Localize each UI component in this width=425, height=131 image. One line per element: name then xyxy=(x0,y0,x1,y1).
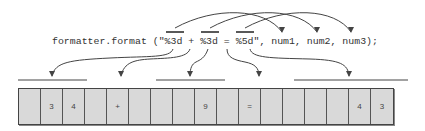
output-cell xyxy=(19,89,41,124)
output-cell xyxy=(261,89,283,124)
output-cell xyxy=(327,89,349,124)
output-cell xyxy=(283,89,305,124)
output-cell: 3 xyxy=(41,89,63,124)
output-cell: 3 xyxy=(371,89,393,124)
output-cell: 4 xyxy=(349,89,371,124)
literal-arrow-equals xyxy=(227,49,259,76)
field-arrow-3 xyxy=(250,49,349,76)
output-cell xyxy=(129,89,151,124)
output-cell xyxy=(151,89,173,124)
field-arrow-1 xyxy=(52,49,173,76)
format-specifier-diagram: formatter.format ("%3d + %3d = %5d", num… xyxy=(0,0,425,131)
arg-arrow-num1 xyxy=(175,13,282,32)
output-cell: = xyxy=(239,89,261,124)
output-cell xyxy=(217,89,239,124)
output-character-strip: 3 4 + 9 = 4 3 xyxy=(18,88,394,125)
literal-arrow-plus xyxy=(121,49,190,76)
field-arrow-2 xyxy=(190,49,208,76)
output-cell xyxy=(85,89,107,124)
output-cell: 9 xyxy=(195,89,217,124)
output-cell: + xyxy=(107,89,129,124)
output-cell xyxy=(305,89,327,124)
format-call-code: formatter.format ("%3d + %3d = %5d", num… xyxy=(52,36,378,47)
arg-arrow-num3 xyxy=(245,13,351,32)
output-cell xyxy=(173,89,195,124)
output-cell: 4 xyxy=(63,89,85,124)
arg-arrow-num2 xyxy=(210,13,317,32)
